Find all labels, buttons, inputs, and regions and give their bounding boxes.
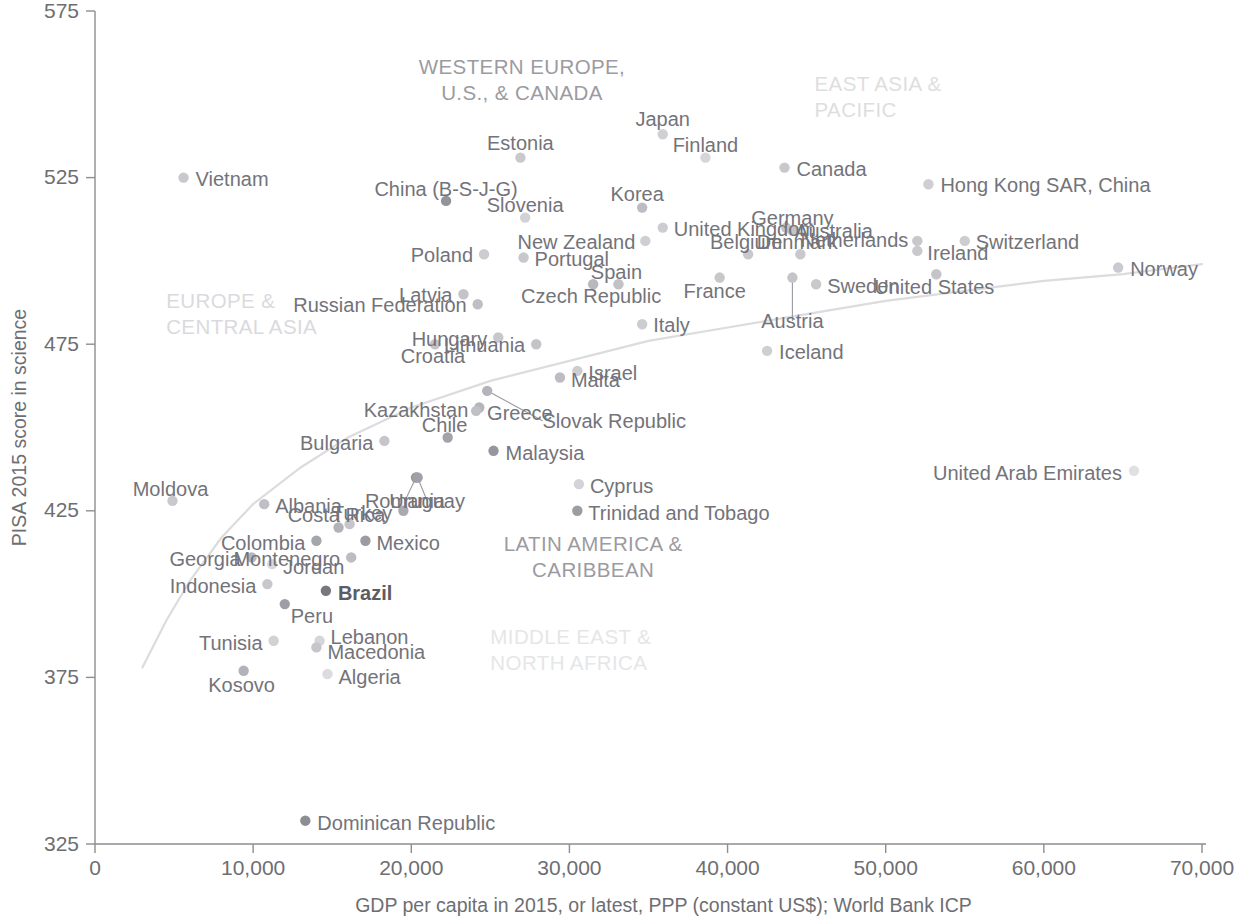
data-point-italy[interactable] <box>637 319 647 329</box>
country-label-austria: Austria <box>761 310 824 332</box>
region-label-latin-america-caribbean: LATIN AMERICA &CARIBBEAN <box>504 532 683 581</box>
data-point-hong-kong-sar-china[interactable] <box>923 179 933 189</box>
x-tick-label: 60,000 <box>1012 856 1076 879</box>
country-label-chile: Chile <box>422 414 468 436</box>
country-label-canada: Canada <box>797 158 868 180</box>
x-tick-label: 0 <box>89 856 101 879</box>
x-tick-label: 70,000 <box>1170 856 1234 879</box>
country-label-iceland: Iceland <box>779 341 844 363</box>
point-labels-group: VietnamEstoniaJapanCanadaFinlandHong Kon… <box>133 108 1198 833</box>
country-label-belgium: Belgium <box>710 231 782 253</box>
country-label-brazil: Brazil <box>338 582 392 604</box>
data-point-sweden[interactable] <box>811 279 821 289</box>
data-point-greece[interactable] <box>471 406 481 416</box>
region-label-line: PACIFIC <box>815 98 897 121</box>
country-label-moldova: Moldova <box>133 478 209 500</box>
region-label-line: LATIN AMERICA & <box>504 532 683 555</box>
country-label-mexico: Mexico <box>376 532 439 554</box>
data-point-mexico[interactable] <box>360 536 370 546</box>
data-point-trinidad-and-tobago[interactable] <box>572 506 582 516</box>
country-label-slovak-republic: Slovak Republic <box>543 410 686 432</box>
data-point-united-arab-emirates[interactable] <box>1129 466 1139 476</box>
data-point-montenegro[interactable] <box>346 552 356 562</box>
data-point-russian-federation[interactable] <box>473 299 483 309</box>
country-label-norway: Norway <box>1130 258 1198 280</box>
data-point-lithuania[interactable] <box>531 339 541 349</box>
data-point-tunisia[interactable] <box>269 636 279 646</box>
data-point-austria[interactable] <box>787 272 797 282</box>
country-label-finland: Finland <box>673 134 739 156</box>
data-point-bulgaria[interactable] <box>379 436 389 446</box>
y-tick-label: 425 <box>44 498 79 521</box>
region-label-line: CENTRAL ASIA <box>166 315 317 338</box>
country-label-cyprus: Cyprus <box>590 475 653 497</box>
region-label-line: U.S., & CANADA <box>441 81 603 104</box>
data-point-netherlands[interactable] <box>912 236 922 246</box>
data-point-dominican-republic[interactable] <box>300 815 310 825</box>
country-label-china-b-s-j-g: China (B-S-J-G) <box>374 178 517 200</box>
data-point-iceland[interactable] <box>762 346 772 356</box>
region-label-line: CARIBBEAN <box>532 558 654 581</box>
country-label-greece: Greece <box>487 402 553 424</box>
country-label-kosovo: Kosovo <box>208 674 275 696</box>
country-label-costa-rica: Costa Rica <box>288 504 387 526</box>
x-tick-label: 30,000 <box>537 856 601 879</box>
y-tick-label: 525 <box>44 165 79 188</box>
country-label-montenegro: Montenegro <box>233 548 340 570</box>
data-point-algeria[interactable] <box>322 669 332 679</box>
x-tick-label: 20,000 <box>379 856 443 879</box>
pisa-gdp-scatter-chart: 325375425475525575010,00020,00030,00040,… <box>0 0 1255 923</box>
data-point-portugal[interactable] <box>518 252 528 262</box>
data-point-brazil[interactable] <box>321 586 331 596</box>
data-point-malta[interactable] <box>555 372 565 382</box>
data-point-poland[interactable] <box>479 249 489 259</box>
y-tick-label: 325 <box>44 832 79 855</box>
axes-group: 325375425475525575010,00020,00030,00040,… <box>44 0 1234 879</box>
region-label-line: WESTERN EUROPE, <box>419 55 625 78</box>
data-point-slovak-republic[interactable] <box>482 386 492 396</box>
country-label-vietnam: Vietnam <box>196 168 269 190</box>
data-point-colombia[interactable] <box>311 536 321 546</box>
country-label-macedonia: Macedonia <box>327 641 426 663</box>
x-tick-label: 40,000 <box>695 856 759 879</box>
data-point-uruguay[interactable] <box>412 472 422 482</box>
data-point-norway[interactable] <box>1113 262 1123 272</box>
country-label-france: France <box>684 280 746 302</box>
data-point-canada[interactable] <box>779 162 789 172</box>
country-label-russian-federation: Russian Federation <box>293 294 466 316</box>
country-label-dominican-republic: Dominican Republic <box>317 812 495 834</box>
country-label-trinidad-and-tobago: Trinidad and Tobago <box>588 502 769 524</box>
data-point-ireland[interactable] <box>912 246 922 256</box>
country-label-italy: Italy <box>653 314 690 336</box>
scatter-plot-canvas: 325375425475525575010,00020,00030,00040,… <box>0 0 1255 923</box>
data-point-macedonia[interactable] <box>311 642 321 652</box>
region-label-line: NORTH AFRICA <box>490 651 647 674</box>
country-label-korea: Korea <box>610 183 664 205</box>
y-tick-label: 575 <box>44 0 79 22</box>
data-point-albania[interactable] <box>259 499 269 509</box>
y-axis-title: PISA 2015 score in science <box>8 309 30 546</box>
data-point-estonia[interactable] <box>515 152 525 162</box>
y-tick-label: 375 <box>44 665 79 688</box>
country-label-spain: Spain <box>591 261 642 283</box>
country-label-malta: Malta <box>571 369 621 391</box>
region-label-middle-east-north-africa: MIDDLE EAST &NORTH AFRICA <box>490 625 651 674</box>
data-point-new-zealand[interactable] <box>640 236 650 246</box>
country-label-indonesia: Indonesia <box>170 575 258 597</box>
region-label-line: MIDDLE EAST & <box>490 625 651 648</box>
x-tick-label: 50,000 <box>854 856 918 879</box>
region-label-western-europe-u-s-canada: WESTERN EUROPE,U.S., & CANADA <box>419 55 625 104</box>
data-point-japan[interactable] <box>658 129 668 139</box>
region-label-line: EUROPE & <box>166 289 275 312</box>
country-label-croatia: Croatia <box>401 345 466 367</box>
country-label-georgia: Georgia <box>169 548 241 570</box>
data-point-malaysia[interactable] <box>488 446 498 456</box>
data-point-indonesia[interactable] <box>262 579 272 589</box>
data-point-peru[interactable] <box>280 599 290 609</box>
country-label-tunisia: Tunisia <box>199 632 264 654</box>
data-point-vietnam[interactable] <box>178 172 188 182</box>
country-label-bulgaria: Bulgaria <box>300 432 374 454</box>
data-point-united-kingdom[interactable] <box>658 222 668 232</box>
x-axis-title: GDP per capita in 2015, or latest, PPP (… <box>355 894 972 916</box>
data-point-cyprus[interactable] <box>574 479 584 489</box>
